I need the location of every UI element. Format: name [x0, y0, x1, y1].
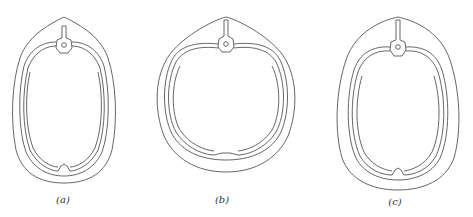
figure-c-ring-inner	[352, 51, 444, 175]
figure-a-vertebra-hole	[62, 43, 67, 48]
figure-a	[13, 17, 116, 183]
figure-c-outer-outline	[337, 17, 459, 190]
figure-a-ring-inner2	[27, 72, 102, 167]
figure-a-outer-outline	[13, 17, 116, 183]
figure-b-outer-outline	[157, 17, 295, 172]
figure-c	[337, 17, 459, 190]
figure-b-label: (b)	[215, 194, 229, 205]
figure-c-label: (c)	[388, 196, 401, 207]
figure-b-vertebra	[218, 20, 234, 52]
figure-b-ring-inner2	[173, 66, 279, 151]
figure-c-vertebra-hole	[396, 45, 401, 50]
figure-b-vertebra-hole	[224, 42, 229, 47]
figure-a-label: (a)	[56, 194, 70, 205]
figure-b-ring-outer	[165, 43, 288, 160]
figure-c-vertebra	[390, 20, 406, 56]
diagram-canvas	[0, 0, 473, 217]
figure-b-ring-inner	[169, 47, 284, 155]
figure-a-vertebra	[56, 26, 72, 53]
figure-b	[157, 17, 295, 172]
figure-c-ring-inner2	[357, 76, 439, 171]
